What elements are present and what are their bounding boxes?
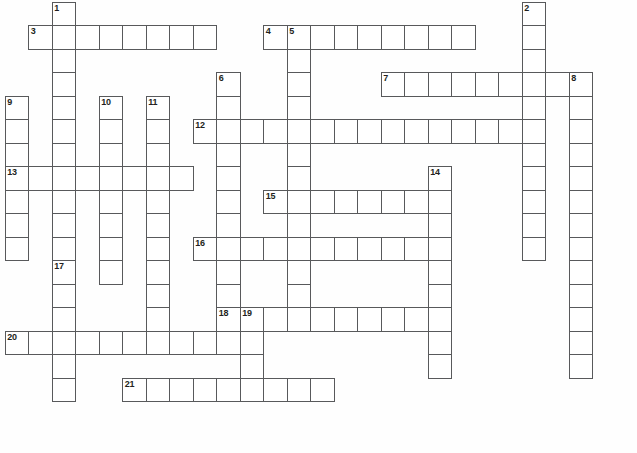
crossword-cell-numbered[interactable]: 2 [522, 2, 547, 27]
crossword-cell[interactable] [569, 284, 594, 309]
crossword-cell[interactable] [146, 307, 171, 332]
crossword-cell[interactable] [146, 143, 171, 168]
crossword-cell[interactable] [569, 260, 594, 285]
crossword-cell[interactable] [287, 213, 312, 238]
crossword-cell[interactable] [122, 25, 147, 50]
crossword-cell[interactable] [404, 307, 429, 332]
crossword-cell[interactable] [146, 260, 171, 285]
crossword-cell[interactable] [287, 237, 312, 262]
crossword-cell[interactable] [169, 166, 194, 191]
crossword-cell[interactable] [287, 378, 312, 403]
crossword-cell[interactable] [169, 331, 194, 356]
crossword-cell[interactable] [216, 284, 241, 309]
crossword-cell[interactable] [357, 190, 382, 215]
crossword-cell[interactable] [357, 307, 382, 332]
crossword-cell[interactable] [381, 25, 406, 50]
crossword-cell[interactable] [428, 119, 453, 144]
crossword-cell[interactable] [52, 190, 77, 215]
crossword-cell[interactable] [334, 119, 359, 144]
crossword-cell-numbered[interactable]: 1 [52, 2, 77, 27]
crossword-cell[interactable] [381, 119, 406, 144]
crossword-cell[interactable] [569, 166, 594, 191]
crossword-cell[interactable] [75, 166, 100, 191]
crossword-cell[interactable] [522, 96, 547, 121]
crossword-cell[interactable] [522, 237, 547, 262]
crossword-cell[interactable] [216, 331, 241, 356]
crossword-cell[interactable] [240, 331, 265, 356]
crossword-cell[interactable] [569, 119, 594, 144]
crossword-cell[interactable] [569, 307, 594, 332]
crossword-cell[interactable] [522, 119, 547, 144]
crossword-cell[interactable] [146, 331, 171, 356]
crossword-cell[interactable] [263, 237, 288, 262]
crossword-cell[interactable] [122, 331, 147, 356]
crossword-cell[interactable] [216, 237, 241, 262]
crossword-cell[interactable] [5, 213, 30, 238]
crossword-cell[interactable] [428, 190, 453, 215]
crossword-cell[interactable] [287, 119, 312, 144]
crossword-cell[interactable] [99, 237, 124, 262]
crossword-cell[interactable] [99, 25, 124, 50]
crossword-cell[interactable] [52, 284, 77, 309]
crossword-cell[interactable] [381, 190, 406, 215]
crossword-cell[interactable] [216, 119, 241, 144]
crossword-cell[interactable] [216, 190, 241, 215]
crossword-cell[interactable] [287, 143, 312, 168]
crossword-cell-numbered[interactable]: 3 [28, 25, 53, 50]
crossword-cell[interactable] [52, 119, 77, 144]
crossword-cell[interactable] [52, 49, 77, 74]
crossword-cell[interactable] [310, 119, 335, 144]
crossword-cell[interactable] [287, 49, 312, 74]
crossword-cell[interactable] [569, 213, 594, 238]
crossword-cell[interactable] [52, 166, 77, 191]
crossword-cell-numbered[interactable]: 11 [146, 96, 171, 121]
crossword-cell[interactable] [5, 119, 30, 144]
crossword-cell[interactable] [146, 166, 171, 191]
crossword-cell[interactable] [404, 25, 429, 50]
crossword-cell[interactable] [475, 72, 500, 97]
crossword-cell[interactable] [569, 190, 594, 215]
crossword-cell[interactable] [52, 96, 77, 121]
crossword-cell-numbered[interactable]: 14 [428, 166, 453, 191]
crossword-cell[interactable] [99, 166, 124, 191]
crossword-cell[interactable] [193, 331, 218, 356]
crossword-cell[interactable] [240, 354, 265, 379]
crossword-cell[interactable] [357, 119, 382, 144]
crossword-cell-numbered[interactable]: 9 [5, 96, 30, 121]
crossword-cell[interactable] [310, 25, 335, 50]
crossword-cell[interactable] [169, 25, 194, 50]
crossword-cell-numbered[interactable]: 13 [5, 166, 30, 191]
crossword-cell[interactable] [404, 190, 429, 215]
crossword-cell[interactable] [75, 25, 100, 50]
crossword-cell[interactable] [404, 72, 429, 97]
crossword-cell[interactable] [428, 307, 453, 332]
crossword-cell[interactable] [216, 166, 241, 191]
crossword-cell[interactable] [146, 119, 171, 144]
crossword-cell[interactable] [52, 354, 77, 379]
crossword-cell-numbered[interactable]: 20 [5, 331, 30, 356]
crossword-cell[interactable] [99, 190, 124, 215]
crossword-cell[interactable] [146, 237, 171, 262]
crossword-cell[interactable] [28, 166, 53, 191]
crossword-cell[interactable] [146, 25, 171, 50]
crossword-cell[interactable] [569, 237, 594, 262]
crossword-cell[interactable] [99, 143, 124, 168]
crossword-cell[interactable] [287, 72, 312, 97]
crossword-cell[interactable] [287, 260, 312, 285]
crossword-cell[interactable] [99, 119, 124, 144]
crossword-cell[interactable] [240, 119, 265, 144]
crossword-cell[interactable] [404, 237, 429, 262]
crossword-cell[interactable] [310, 237, 335, 262]
crossword-cell[interactable] [381, 237, 406, 262]
crossword-cell-numbered[interactable]: 5 [287, 25, 312, 50]
crossword-cell[interactable] [52, 72, 77, 97]
crossword-cell[interactable] [216, 260, 241, 285]
crossword-cell[interactable] [287, 166, 312, 191]
crossword-cell[interactable] [146, 378, 171, 403]
crossword-cell[interactable] [428, 331, 453, 356]
crossword-cell-numbered[interactable]: 8 [569, 72, 594, 97]
crossword-cell[interactable] [52, 331, 77, 356]
crossword-cell[interactable] [451, 25, 476, 50]
crossword-cell[interactable] [428, 284, 453, 309]
crossword-cell[interactable] [99, 331, 124, 356]
